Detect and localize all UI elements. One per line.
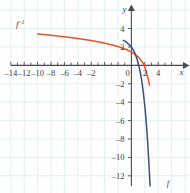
ytick-label-neg6: –6	[115, 116, 125, 126]
ytick-label-neg12: –12	[111, 171, 125, 181]
ytick-label-neg10: –10	[111, 152, 125, 162]
y-axis	[128, 5, 135, 187]
ytick-label-neg8: –8	[115, 134, 125, 144]
y-axis-label: y	[122, 4, 127, 14]
curve-label-f: f	[167, 178, 171, 188]
grid-lines-horizontal	[0, 10, 190, 176]
x-axis-tick-labels: –14 –12 –10 –8 –6 –4 –2 0 2 4	[3, 68, 161, 78]
xtick-label-neg10: –10	[30, 68, 44, 78]
curve-label-f-inverse-exponent: –1	[18, 19, 25, 25]
xtick-label-neg8: –8	[46, 68, 56, 78]
xtick-label-neg2: –2	[86, 68, 96, 78]
curve-f	[123, 40, 150, 186]
plot-canvas: –14 –12 –10 –8 –6 –4 –2 0 2 4 4 2 –2 –4 …	[0, 0, 190, 193]
ytick-label-neg4: –4	[115, 97, 125, 107]
ytick-label-2: 2	[120, 42, 124, 52]
function-inverse-graph-figure: –14 –12 –10 –8 –6 –4 –2 0 2 4 4 2 –2 –4 …	[0, 0, 190, 193]
xtick-label-neg4: –4	[73, 68, 83, 78]
x-axis-label: x	[179, 67, 184, 77]
xtick-label-4: 4	[156, 68, 161, 78]
curve-label-f-inverse: f–1	[16, 19, 25, 30]
ytick-label-neg2: –2	[115, 79, 125, 89]
xtick-label-neg12: –12	[17, 68, 31, 78]
xtick-label-neg14: –14	[3, 68, 18, 78]
xtick-label-neg6: –6	[59, 68, 69, 78]
xtick-label-zero: 0	[125, 68, 129, 78]
xtick-label-2: 2	[143, 68, 147, 78]
